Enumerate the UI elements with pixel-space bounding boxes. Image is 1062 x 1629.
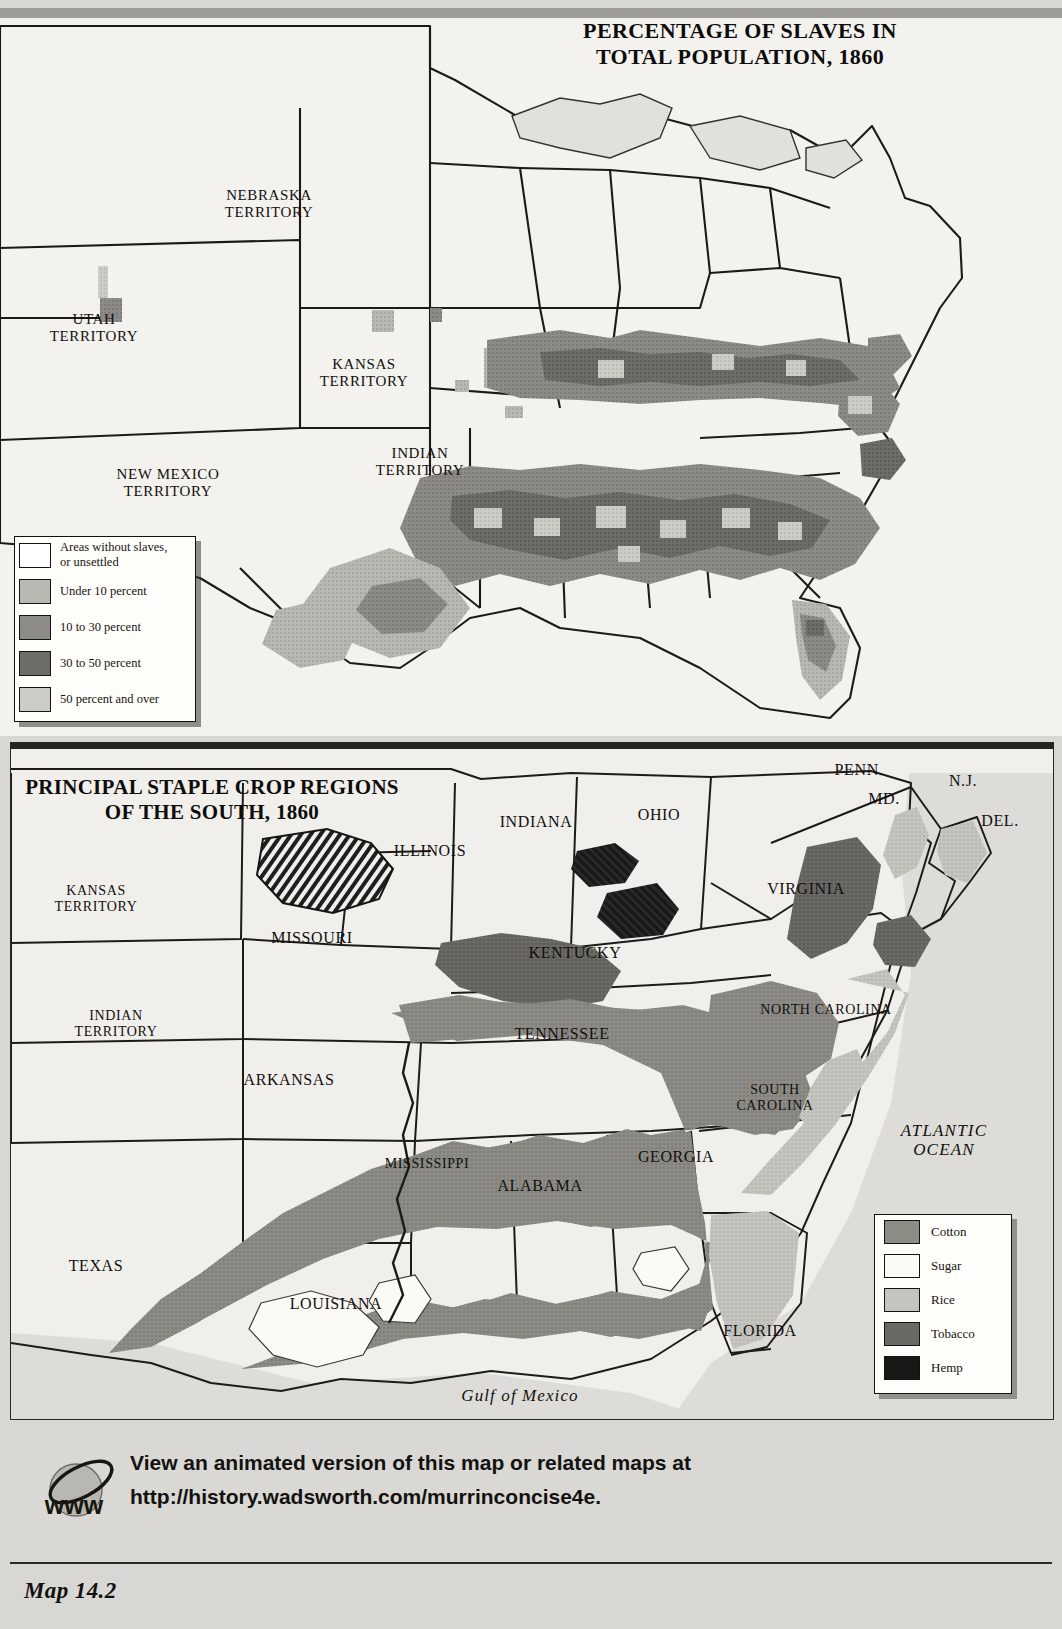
slave-percentage-legend: Areas without slaves, or unsettledUnder … <box>14 536 196 722</box>
legend-swatch <box>19 579 51 604</box>
crop-legend-row: Cotton <box>875 1215 1011 1249</box>
legend-row: Under 10 percent <box>15 573 195 609</box>
legend-row: 50 percent and over <box>15 681 195 717</box>
crop-legend-swatch <box>884 1288 920 1312</box>
legend-label: Areas without slaves, or unsettled <box>60 540 167 570</box>
crop-legend-row: Rice <box>875 1283 1011 1317</box>
textbook-map-page: PERCENTAGE OF SLAVES IN TOTAL POPULATION… <box>0 0 1062 1629</box>
footer-line2: http://history.wadsworth.com/murrinconci… <box>130 1480 1010 1514</box>
legend-label: 50 percent and over <box>60 692 159 707</box>
top-map-title-line1: PERCENTAGE OF SLAVES IN <box>530 18 950 44</box>
map-caption: Map 14.2 <box>24 1578 117 1604</box>
legend-row: 30 to 50 percent <box>15 645 195 681</box>
legend-label: Under 10 percent <box>60 584 147 599</box>
slave-percentage-map: PERCENTAGE OF SLAVES IN TOTAL POPULATION… <box>0 8 1062 736</box>
www-text: www <box>44 1491 104 1519</box>
legend-row: Areas without slaves, or unsettled <box>15 537 195 573</box>
crop-legend-swatch <box>884 1220 920 1244</box>
www-globe-icon: www <box>34 1448 128 1524</box>
footer-divider <box>10 1562 1052 1564</box>
crop-legend-row: Tobacco <box>875 1317 1011 1351</box>
legend-label: 10 to 30 percent <box>60 620 141 635</box>
top-map-title-line2: TOTAL POPULATION, 1860 <box>530 44 950 70</box>
legend-swatch <box>19 615 51 640</box>
crop-legend-label: Tobacco <box>931 1326 975 1342</box>
footer-banner: www View an animated version of this map… <box>10 1424 1052 1554</box>
legend-swatch <box>19 651 51 676</box>
legend-label: 30 to 50 percent <box>60 656 141 671</box>
footer-text: View an animated version of this map or … <box>130 1446 1010 1514</box>
footer-line1: View an animated version of this map or … <box>130 1446 1010 1480</box>
legend-swatch <box>19 687 51 712</box>
bottom-map-title-line1: PRINCIPAL STAPLE CROP REGIONS <box>10 775 427 800</box>
crop-legend-row: Sugar <box>875 1249 1011 1283</box>
crop-legend-label: Sugar <box>931 1258 961 1274</box>
crop-legend-row: Hemp <box>875 1351 1011 1385</box>
staple-crop-legend: CottonSugarRiceTobaccoHemp <box>874 1214 1012 1394</box>
crop-legend-label: Cotton <box>931 1224 966 1240</box>
legend-row: 10 to 30 percent <box>15 609 195 645</box>
top-map-title: PERCENTAGE OF SLAVES IN TOTAL POPULATION… <box>530 18 950 70</box>
crop-legend-swatch <box>884 1322 920 1346</box>
crop-legend-swatch <box>884 1356 920 1380</box>
crop-legend-label: Rice <box>931 1292 955 1308</box>
bottom-map-title-line2: OF THE SOUTH, 1860 <box>10 800 427 825</box>
crop-legend-swatch <box>884 1254 920 1278</box>
bottom-map-title: PRINCIPAL STAPLE CROP REGIONS OF THE SOU… <box>10 775 427 825</box>
crop-legend-label: Hemp <box>931 1360 963 1376</box>
legend-swatch <box>19 543 51 568</box>
